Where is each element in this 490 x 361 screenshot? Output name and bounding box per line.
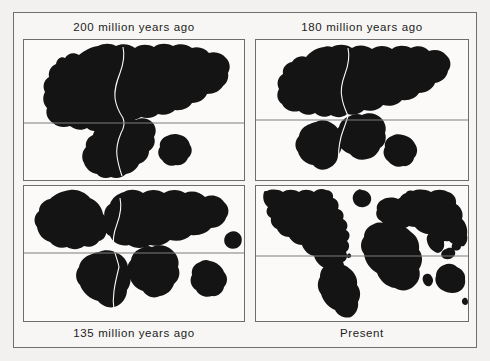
figure-outer-frame: 200 million years ago 180	[13, 12, 477, 348]
south-america-landmass	[318, 263, 360, 317]
panel-present-map	[255, 185, 469, 322]
panel-135-million-years-ago: 135 million years ago	[23, 185, 245, 343]
panel-135-map	[23, 185, 245, 322]
panel-200-million-years-ago: 200 million years ago	[23, 19, 245, 181]
eurasia-landmass	[104, 190, 229, 248]
panel-135-caption: 135 million years ago	[23, 325, 245, 343]
australia-landmass	[435, 264, 465, 293]
north-america-landmass	[35, 190, 108, 249]
panel-200-map	[23, 39, 245, 181]
panel-180-caption: 180 million years ago	[255, 19, 469, 37]
south-america-landmass	[76, 250, 130, 307]
panel-present: Present	[255, 185, 469, 343]
new-zealand-islands	[462, 298, 468, 305]
india-fragment	[158, 134, 191, 166]
drift-135-map-svg	[24, 186, 244, 321]
present-world-map-svg	[256, 186, 468, 321]
india-landmass	[191, 260, 227, 297]
india-madagascar-block	[384, 134, 418, 166]
pangaea-200-map-svg	[24, 40, 244, 180]
laurasia-landmass	[277, 45, 450, 117]
madagascar-landmass	[423, 274, 433, 287]
panel-180-million-years-ago: 180 million years ago	[255, 19, 469, 181]
panel-180-map	[255, 39, 469, 181]
pangaea-180-map-svg	[256, 40, 468, 180]
panel-present-caption: Present	[255, 325, 469, 343]
antarctica-australia-sliver	[224, 231, 242, 249]
continental-drift-figure: 200 million years ago 180	[0, 0, 490, 361]
south-america-landmass	[295, 120, 341, 169]
africa-landmass	[361, 223, 422, 291]
greenland-landmass	[353, 189, 371, 207]
panel-200-caption: 200 million years ago	[23, 19, 245, 37]
